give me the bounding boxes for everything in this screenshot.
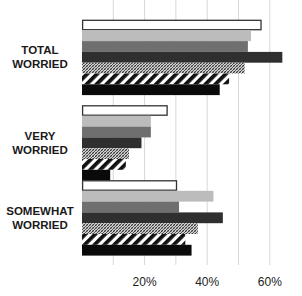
category-labels: TOTALWORRIEDVERYWORRIEDSOMEWHATWORRIED (6, 44, 74, 231)
bar-total-worried-series-1 (83, 20, 261, 29)
bar-somewhat-worried-series-5 (82, 223, 198, 234)
bars (82, 20, 282, 255)
bar-total-worried-series-2 (82, 30, 251, 41)
bar-very-worried-series-3 (82, 127, 151, 138)
bar-somewhat-worried-series-6 (82, 234, 185, 245)
bar-somewhat-worried-series-1 (83, 181, 177, 190)
category-label-somewhat-worried: SOMEWHATWORRIED (6, 205, 74, 231)
category-label-very-worried: VERYWORRIED (12, 130, 68, 156)
bar-total-worried-series-4 (82, 52, 282, 63)
bar-very-worried-series-7 (82, 170, 110, 181)
category-label-total-worried: TOTALWORRIED (12, 44, 68, 70)
bar-somewhat-worried-series-2 (82, 191, 213, 202)
bar-very-worried-series-4 (82, 137, 141, 148)
bar-somewhat-worried-series-4 (82, 212, 223, 223)
bar-somewhat-worried-series-3 (82, 202, 179, 213)
grouped-bar-chart: TOTALWORRIEDVERYWORRIEDSOMEWHATWORRIED 2… (0, 0, 302, 296)
x-axis-tick-labels: 20%40%60% (133, 275, 283, 289)
bar-very-worried-series-5 (82, 148, 129, 159)
bar-somewhat-worried-series-7 (82, 245, 192, 256)
bar-total-worried-series-7 (82, 84, 220, 95)
bar-very-worried-series-6 (82, 159, 126, 170)
x-tick-label-60: 60% (258, 275, 282, 289)
bar-very-worried-series-1 (83, 106, 168, 115)
bar-very-worried-series-2 (82, 116, 151, 127)
bar-total-worried-series-3 (82, 41, 248, 52)
bar-total-worried-series-6 (82, 74, 229, 85)
x-tick-label-40: 40% (195, 275, 219, 289)
bar-total-worried-series-5 (82, 63, 245, 74)
x-tick-label-20: 20% (133, 275, 157, 289)
